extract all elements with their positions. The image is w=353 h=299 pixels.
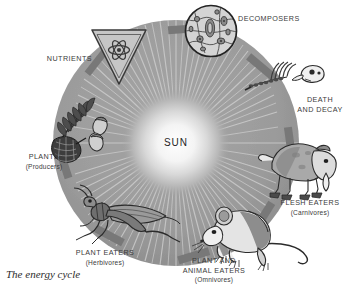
energy-cycle-figure: SUN NUTRIENTS [0,0,353,299]
label-death-line1: DEATH [307,95,333,104]
figure-caption: The energy cycle [6,268,80,280]
label-nutrients: NUTRIENTS [36,54,92,64]
flesh-eaters-icon [256,131,346,203]
label-omnivores-sub: (Omnivores) [159,275,269,285]
decomposers-icon [183,3,239,59]
label-death-line2: AND DECAY [290,105,350,115]
label-omnivores-line1: PLANT AND [192,256,236,265]
label-plant-and-animal-eaters: PLANT AND ANIMAL EATERS (Omnivores) [159,256,269,285]
label-plant-eaters-main: PLANT EATERS [76,248,135,257]
sun-center-label: SUN [150,138,202,148]
label-plants-main: PLANTS [29,152,60,161]
label-death-and-decay: DEATH AND DECAY [290,95,350,114]
plant-eaters-icon [68,186,184,248]
label-omnivores-line2: ANIMAL EATERS [159,266,269,276]
nutrients-icon [88,26,150,88]
label-decomposers: DECOMPOSERS [238,14,334,24]
label-plants-sub: (Producers) [8,162,80,172]
label-plants: PLANTS (Producers) [8,152,80,171]
label-plant-eaters-sub: (Herbivores) [52,258,158,268]
label-plant-eaters: PLANT EATERS (Herbivores) [52,248,158,267]
death-and-decay-icon [243,56,327,98]
